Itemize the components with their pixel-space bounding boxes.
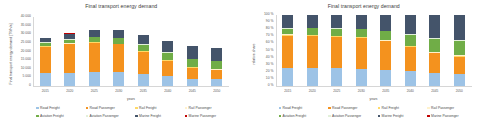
bar-segment[interactable] <box>162 41 173 52</box>
stacked-bar[interactable] <box>162 41 173 86</box>
legend-item[interactable]: Road Freight <box>36 106 84 110</box>
bar-segment[interactable] <box>187 59 198 67</box>
stacked-bar[interactable] <box>40 38 51 86</box>
bar-segment[interactable] <box>356 29 367 36</box>
bar-segment[interactable] <box>64 73 75 86</box>
bar-segment[interactable] <box>40 73 51 86</box>
bar-segment[interactable] <box>187 68 198 79</box>
stacked-bar[interactable] <box>113 30 124 86</box>
bar-column[interactable]: 2025 <box>325 15 350 86</box>
bar-column[interactable]: 2035 <box>374 15 399 86</box>
legend-item[interactable]: Road Passenger <box>328 106 376 110</box>
bar-column[interactable]: 2030 <box>107 17 132 86</box>
stacked-bar[interactable] <box>429 15 440 86</box>
bar-segment[interactable] <box>162 61 173 77</box>
bar-segment[interactable] <box>380 31 391 40</box>
bar-segment[interactable] <box>89 30 100 37</box>
stacked-bar[interactable] <box>307 15 318 86</box>
bar-segment[interactable] <box>331 37 342 68</box>
bar-segment[interactable] <box>356 69 367 86</box>
bar-segment[interactable] <box>454 74 465 86</box>
bar-segment[interactable] <box>40 47 51 74</box>
legend-item[interactable]: Aviation Passenger <box>86 114 134 118</box>
bar-segment[interactable] <box>89 43 100 72</box>
legend-item[interactable]: Rail Passenger <box>427 106 475 110</box>
bar-segment[interactable] <box>89 72 100 86</box>
bar-segment[interactable] <box>307 15 318 28</box>
legend-item[interactable]: Aviation Freight <box>279 114 327 118</box>
bar-segment[interactable] <box>331 15 342 28</box>
bar-segment[interactable] <box>138 35 149 44</box>
bar-segment[interactable] <box>162 53 173 60</box>
legend-item[interactable]: Marine Passenger <box>427 114 475 118</box>
bar-segment[interactable] <box>282 15 293 28</box>
bar-segment[interactable] <box>429 73 440 86</box>
bar-segment[interactable] <box>187 79 198 86</box>
bar-segment[interactable] <box>282 68 293 86</box>
bar-column[interactable]: 2035 <box>131 17 156 86</box>
bar-segment[interactable] <box>211 48 222 61</box>
bar-column[interactable]: 2030 <box>349 15 374 86</box>
bar-column[interactable]: 2045 <box>423 15 448 86</box>
bar-segment[interactable] <box>162 76 173 86</box>
bar-segment[interactable] <box>429 15 440 38</box>
legend-item[interactable]: Aviation Passenger <box>328 114 376 118</box>
bar-column[interactable]: 2040 <box>156 17 181 86</box>
bar-segment[interactable] <box>380 15 391 30</box>
bar-segment[interactable] <box>380 70 391 86</box>
bar-segment[interactable] <box>331 68 342 86</box>
bar-segment[interactable] <box>380 41 391 69</box>
legend-item[interactable]: Rail Freight <box>135 106 183 110</box>
bar-segment[interactable] <box>138 52 149 74</box>
bar-segment[interactable] <box>307 68 318 86</box>
stacked-bar[interactable] <box>331 15 342 86</box>
bar-segment[interactable] <box>454 41 465 56</box>
bar-segment[interactable] <box>405 15 416 34</box>
bar-segment[interactable] <box>211 61 222 69</box>
bar-column[interactable]: 2050 <box>205 17 230 86</box>
legend-item[interactable]: Road Passenger <box>86 106 134 110</box>
stacked-bar[interactable] <box>454 15 465 86</box>
bar-segment[interactable] <box>454 57 465 74</box>
bar-segment[interactable] <box>405 47 416 71</box>
stacked-bar[interactable] <box>356 15 367 86</box>
legend-item[interactable]: Rail Freight <box>378 106 426 110</box>
stacked-bar[interactable] <box>64 33 75 86</box>
bar-column[interactable]: 2020 <box>300 15 325 86</box>
bar-segment[interactable] <box>454 15 465 40</box>
bar-segment[interactable] <box>113 30 124 38</box>
legend-item[interactable]: Aviation Freight <box>36 114 84 118</box>
legend-item[interactable]: Marine Freight <box>378 114 426 118</box>
stacked-bar[interactable] <box>282 15 293 86</box>
bar-segment[interactable] <box>405 35 416 46</box>
stacked-bar[interactable] <box>380 15 391 86</box>
bar-segment[interactable] <box>138 74 149 86</box>
bar-segment[interactable] <box>113 72 124 86</box>
bar-column[interactable]: 2045 <box>180 17 205 86</box>
bar-column[interactable]: 2020 <box>58 17 83 86</box>
bar-segment[interactable] <box>405 71 416 86</box>
bar-column[interactable]: 2025 <box>82 17 107 86</box>
stacked-bar[interactable] <box>211 47 222 86</box>
bar-segment[interactable] <box>356 38 367 69</box>
bar-segment[interactable] <box>282 36 293 68</box>
bar-segment[interactable] <box>187 46 198 59</box>
stacked-bar[interactable] <box>89 30 100 86</box>
bar-segment[interactable] <box>307 36 318 68</box>
bar-column[interactable]: 2015 <box>276 15 301 86</box>
stacked-bar[interactable] <box>405 15 416 86</box>
bar-segment[interactable] <box>429 53 440 72</box>
legend-item[interactable]: Rail Passenger <box>185 106 233 110</box>
bar-segment[interactable] <box>429 39 440 52</box>
bar-column[interactable]: 2015 <box>33 17 58 86</box>
bar-column[interactable]: 2050 <box>447 15 472 86</box>
bar-segment[interactable] <box>356 15 367 29</box>
bar-column[interactable]: 2040 <box>398 15 423 86</box>
bar-segment[interactable] <box>113 44 124 72</box>
bar-segment[interactable] <box>211 79 222 86</box>
stacked-bar[interactable] <box>138 35 149 86</box>
bar-segment[interactable] <box>211 70 222 79</box>
bar-segment[interactable] <box>331 29 342 36</box>
bar-segment[interactable] <box>64 44 75 72</box>
legend-item[interactable]: Road Freight <box>279 106 327 110</box>
